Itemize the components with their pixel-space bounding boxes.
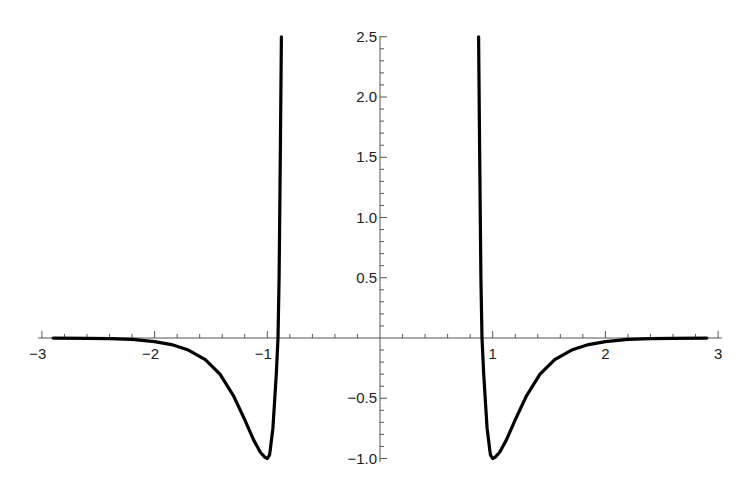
curve-left-branch xyxy=(53,37,281,459)
chart: −3−2−1123 2.52.01.51.00.5−0.5−1.0 xyxy=(0,0,748,496)
y-tick-label: 1.5 xyxy=(356,148,377,165)
x-tick-label: 3 xyxy=(714,345,722,362)
y-tick-label: −0.5 xyxy=(347,389,377,406)
x-tick-label: −1 xyxy=(255,345,272,362)
x-tick-label: −2 xyxy=(142,345,159,362)
x-tick-label: 2 xyxy=(601,345,609,362)
y-tick-label: 1.0 xyxy=(356,209,377,226)
y-minor-ticks xyxy=(380,37,387,459)
x-tick-labels: −3−2−1123 xyxy=(29,345,722,362)
x-tick-label: 1 xyxy=(489,345,497,362)
y-tick-label: 2.5 xyxy=(356,28,377,45)
y-tick-labels: 2.52.01.51.00.5−0.5−1.0 xyxy=(347,28,377,467)
y-tick-label: 0.5 xyxy=(356,269,377,286)
y-tick-label: −1.0 xyxy=(347,450,377,467)
curve-right-branch xyxy=(479,37,707,459)
x-tick-label: −3 xyxy=(29,345,46,362)
axes: −3−2−1123 2.52.01.51.00.5−0.5−1.0 xyxy=(29,28,722,467)
y-tick-label: 2.0 xyxy=(356,88,377,105)
